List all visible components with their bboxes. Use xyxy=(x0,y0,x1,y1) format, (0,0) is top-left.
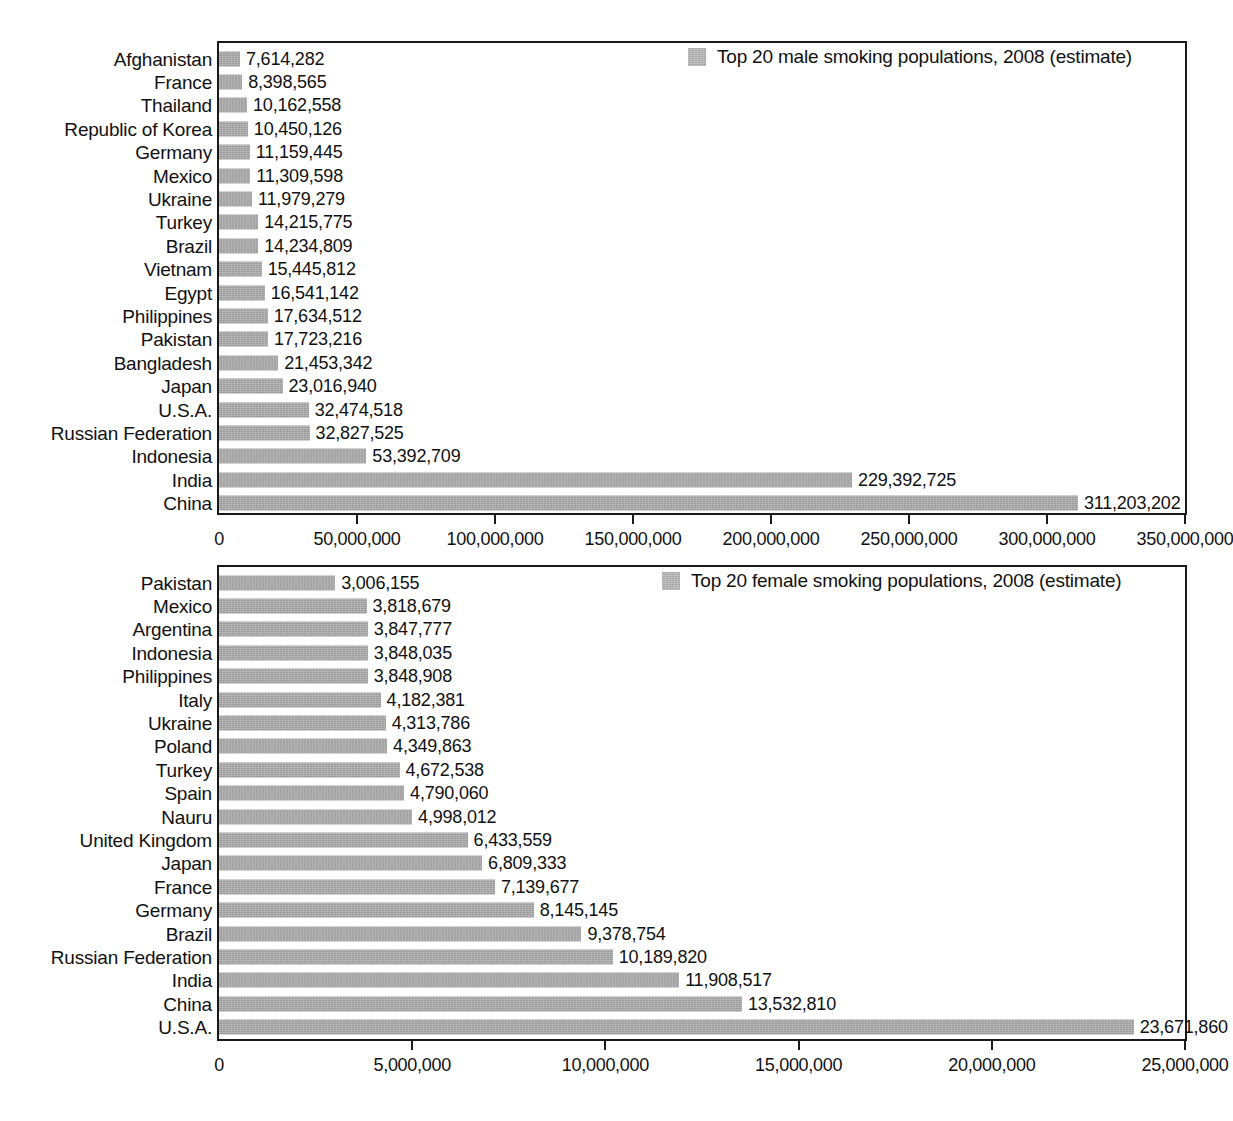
bar xyxy=(219,145,250,160)
bar xyxy=(219,622,368,637)
category-label: Brazil xyxy=(166,924,212,943)
bar xyxy=(219,496,1078,511)
bar-row: Germany8,145,145 xyxy=(0,898,1219,921)
bar-row: Mexico11,309,598 xyxy=(0,164,1219,187)
axis-tick-label: 250,000,000 xyxy=(861,530,958,548)
category-label: U.S.A. xyxy=(158,1018,212,1037)
bar xyxy=(219,379,283,394)
bar-row: Poland4,349,863 xyxy=(0,735,1219,758)
axis-tick-label: 200,000,000 xyxy=(723,530,820,548)
x-axis-male: 050,000,000100,000,000150,000,000200,000… xyxy=(217,513,1187,553)
bar-row: Republic of Korea10,450,126 xyxy=(0,117,1219,140)
bar xyxy=(219,425,310,440)
bar-value-label: 4,182,381 xyxy=(381,691,465,709)
bar-value-label: 10,162,558 xyxy=(247,96,341,114)
bar xyxy=(219,739,387,754)
category-label: France xyxy=(154,877,212,896)
bar-rows-female: Pakistan3,006,155Mexico3,818,679Argentin… xyxy=(0,571,1219,1039)
bar xyxy=(219,98,247,113)
bar-value-label: 6,433,559 xyxy=(468,831,552,849)
category-label: Ukraine xyxy=(148,714,212,733)
bar xyxy=(219,599,367,614)
bar-row: Japan23,016,940 xyxy=(0,374,1219,397)
bar-value-label: 16,541,142 xyxy=(265,284,359,302)
bar-value-label: 13,532,810 xyxy=(742,995,836,1013)
bar-row: France8,398,565 xyxy=(0,70,1219,93)
legend-label: Top 20 male smoking populations, 2008 (e… xyxy=(717,47,1132,66)
category-label: India xyxy=(172,971,212,990)
bar-row: Brazil14,234,809 xyxy=(0,234,1219,257)
axis-tick-label: 5,000,000 xyxy=(373,1056,450,1074)
bar-row: Thailand10,162,558 xyxy=(0,94,1219,117)
bar xyxy=(219,716,386,731)
bar-value-label: 229,392,725 xyxy=(852,471,956,489)
bar-value-label: 53,392,709 xyxy=(366,447,460,465)
legend-swatch-icon xyxy=(688,48,706,66)
bar-row: Bangladesh21,453,342 xyxy=(0,351,1219,374)
bar-value-label: 14,215,775 xyxy=(258,213,352,231)
axis-tick xyxy=(356,513,358,524)
bar-row: United Kingdom6,433,559 xyxy=(0,828,1219,851)
category-label: Pakistan xyxy=(141,330,212,349)
legend-swatch-icon xyxy=(662,572,680,590)
bar-row: Turkey14,215,775 xyxy=(0,211,1219,234)
category-label: Nauru xyxy=(161,807,212,826)
bar-value-label: 15,445,812 xyxy=(262,260,356,278)
category-label: Argentina xyxy=(132,620,212,639)
bar-value-label: 3,006,155 xyxy=(335,574,419,592)
category-label: Thailand xyxy=(141,96,212,115)
bar-value-label: 8,398,565 xyxy=(242,73,326,91)
axis-tick xyxy=(1184,513,1186,524)
bar xyxy=(219,75,242,90)
bar xyxy=(219,121,248,136)
bar-value-label: 21,453,342 xyxy=(278,354,372,372)
category-label: Mexico xyxy=(153,597,212,616)
axis-tick xyxy=(632,513,634,524)
bar-value-label: 11,979,279 xyxy=(252,190,345,208)
bar-row: Russian Federation32,827,525 xyxy=(0,421,1219,444)
category-label: Germany xyxy=(135,901,212,920)
bar-row: Germany11,159,445 xyxy=(0,141,1219,164)
axis-tick-label: 0 xyxy=(214,530,224,548)
bar xyxy=(219,879,495,894)
axis-tick-label: 20,000,000 xyxy=(948,1056,1035,1074)
bar-value-label: 17,634,512 xyxy=(268,307,362,325)
category-label: Bangladesh xyxy=(114,353,212,372)
bar xyxy=(219,332,268,347)
bar xyxy=(219,192,252,207)
bar-row: Italy4,182,381 xyxy=(0,688,1219,711)
bar-value-label: 4,998,012 xyxy=(412,808,496,826)
bar-row: Russian Federation10,189,820 xyxy=(0,945,1219,968)
category-label: China xyxy=(163,494,212,513)
axis-tick xyxy=(770,513,772,524)
bar-row: Brazil9,378,754 xyxy=(0,922,1219,945)
bar xyxy=(219,168,250,183)
bar xyxy=(219,809,412,824)
bar-row: China311,203,202 xyxy=(0,491,1219,514)
bar-row: Pakistan17,723,216 xyxy=(0,328,1219,351)
axis-tick xyxy=(908,513,910,524)
bar xyxy=(219,832,468,847)
bar-value-label: 3,848,908 xyxy=(368,667,452,685)
bar-value-label: 23,671,860 xyxy=(1134,1018,1228,1036)
axis-tick-label: 10,000,000 xyxy=(562,1056,649,1074)
category-label: Philippines xyxy=(122,667,212,686)
bar-value-label: 11,309,598 xyxy=(250,167,343,185)
bar-rows-male: Afghanistan7,614,282France8,398,565Thail… xyxy=(0,47,1219,515)
bar-row: Ukraine11,979,279 xyxy=(0,187,1219,210)
bar xyxy=(219,402,309,417)
axis-tick xyxy=(1184,1039,1186,1050)
x-axis-female: 05,000,00010,000,00015,000,00020,000,000… xyxy=(217,1039,1187,1079)
category-label: Italy xyxy=(178,690,212,709)
category-label: China xyxy=(163,994,212,1013)
bar-row: U.S.A.23,671,860 xyxy=(0,1015,1219,1038)
bar-value-label: 4,672,538 xyxy=(400,761,484,779)
category-label: India xyxy=(172,470,212,489)
bar xyxy=(219,308,268,323)
bar-row: India229,392,725 xyxy=(0,468,1219,491)
bar-value-label: 3,847,777 xyxy=(368,620,452,638)
bar-row: Egypt16,541,142 xyxy=(0,281,1219,304)
bar-row: Vietnam15,445,812 xyxy=(0,258,1219,281)
bar xyxy=(219,786,404,801)
